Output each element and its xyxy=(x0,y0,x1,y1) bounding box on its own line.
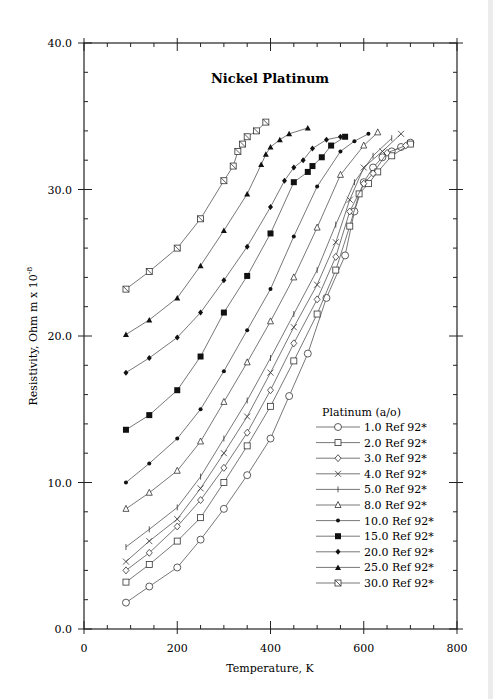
x-axis-label: Temperature, K xyxy=(226,662,314,675)
x-tick-label: 800 xyxy=(447,642,468,655)
legend-label: 10.0 Ref 92* xyxy=(364,515,434,528)
legend-label: 30.0 Ref 92* xyxy=(364,577,434,590)
y-axis-label: Resistivity, Ohm m x 10-8 xyxy=(25,267,40,406)
legend-label: 20.0 Ref 92* xyxy=(364,546,434,559)
legend-title: Platinum (a/o) xyxy=(322,406,401,419)
legend-item: 8.0 Ref 92* xyxy=(316,499,427,512)
x-tick-label: 400 xyxy=(260,642,281,655)
x-tick-label: 200 xyxy=(167,642,188,655)
legend-label: 1.0 Ref 92* xyxy=(364,421,427,434)
legend-item: 10.0 Ref 92* xyxy=(316,515,434,528)
legend-label: 25.0 Ref 92* xyxy=(364,561,434,574)
legend-item: 5.0 Ref 92* xyxy=(316,483,427,496)
legend-item: 25.0 Ref 92* xyxy=(316,561,434,574)
chart-title: Nickel Platinum xyxy=(211,71,329,86)
legend: Platinum (a/o)1.0 Ref 92*2.0 Ref 92*3.0 … xyxy=(316,406,434,590)
resistivity-chart: 02004006008000.010.020.030.040.0 Platinu… xyxy=(0,0,493,699)
y-tick-label: 0.0 xyxy=(55,623,73,636)
x-tick-label: 600 xyxy=(353,642,374,655)
y-tick-label: 30.0 xyxy=(48,184,73,197)
y-tick-label: 10.0 xyxy=(48,477,73,490)
x-tick-label: 0 xyxy=(81,642,88,655)
legend-item: 2.0 Ref 92* xyxy=(316,437,427,450)
y-tick-label: 40.0 xyxy=(48,37,73,50)
legend-item: 4.0 Ref 92* xyxy=(316,468,427,481)
legend-label: 2.0 Ref 92* xyxy=(364,437,427,450)
legend-item: 3.0 Ref 92* xyxy=(316,452,427,465)
y-tick-label: 20.0 xyxy=(48,330,73,343)
series-15.0-pct xyxy=(123,134,348,433)
legend-item: 15.0 Ref 92* xyxy=(316,530,434,543)
legend-label: 5.0 Ref 92* xyxy=(364,483,427,496)
legend-label: 15.0 Ref 92* xyxy=(364,530,434,543)
series-30.0-pct xyxy=(123,119,269,292)
series-8.0-pct xyxy=(123,129,381,512)
legend-item: 30.0 Ref 92* xyxy=(316,577,434,590)
legend-item: 20.0 Ref 92* xyxy=(316,546,434,559)
series-25.0-pct xyxy=(123,125,311,337)
legend-label: 4.0 Ref 92* xyxy=(364,468,427,481)
legend-label: 3.0 Ref 92* xyxy=(364,452,427,465)
legend-item: 1.0 Ref 92* xyxy=(316,421,427,434)
legend-label: 8.0 Ref 92* xyxy=(364,499,427,512)
